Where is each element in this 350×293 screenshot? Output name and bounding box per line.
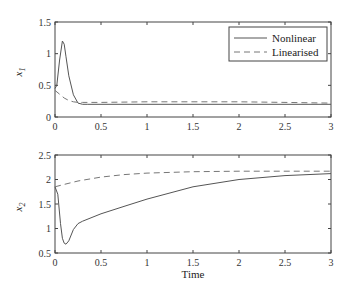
axes-frame-bottom [55, 155, 331, 253]
xtick-label: 1.5 [187, 121, 200, 132]
series-linearised [55, 171, 331, 187]
xtick-label: 1 [145, 121, 150, 132]
axis-ticks-bottom: 00.511.522.530.511.522.5 [39, 150, 334, 269]
subplot-x1: 00.511.522.5300.511.5 x1 Nonlinear Linea… [12, 17, 334, 133]
ytick-label: 2 [46, 174, 51, 185]
subplot-x2: 00.511.522.530.511.522.5 x2 Time [12, 150, 334, 281]
xtick-label: 0 [53, 257, 58, 268]
ylabel-x2: x2 [12, 203, 27, 213]
xtick-label: 3 [329, 257, 334, 268]
xtick-label: 1.5 [187, 257, 200, 268]
series-linearised [55, 90, 331, 103]
xtick-label: 0 [53, 121, 58, 132]
xtick-label: 2 [237, 257, 242, 268]
legend-label-linearised: Linearised [272, 46, 319, 58]
ytick-label: 1.5 [39, 17, 52, 28]
ytick-label: 0.5 [39, 248, 52, 259]
xtick-label: 0.5 [95, 121, 108, 132]
xtick-label: 0.5 [95, 257, 108, 268]
xlabel-time: Time [182, 268, 205, 280]
ytick-label: 2.5 [39, 150, 52, 161]
ytick-label: 0 [46, 112, 51, 123]
xtick-label: 2.5 [279, 121, 292, 132]
legend: Nonlinear Linearised [229, 27, 327, 61]
ytick-label: 1.5 [39, 199, 52, 210]
legend-label-nonlinear: Nonlinear [272, 32, 316, 44]
ytick-label: 1 [46, 223, 51, 234]
figure: 00.511.522.5300.511.5 x1 Nonlinear Linea… [0, 0, 350, 293]
xtick-label: 2.5 [279, 257, 292, 268]
ylabel-x1: x1 [12, 68, 27, 78]
series-nonlinear [55, 174, 331, 245]
ytick-label: 1 [46, 48, 51, 59]
xtick-label: 1 [145, 257, 150, 268]
plot-lines-bottom [55, 171, 331, 244]
xtick-label: 2 [237, 121, 242, 132]
ytick-label: 0.5 [39, 80, 52, 91]
xtick-label: 3 [329, 121, 334, 132]
